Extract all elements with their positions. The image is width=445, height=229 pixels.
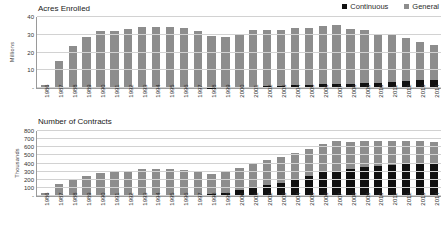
- x-label-slot: 2013: [413, 90, 427, 112]
- bar-slot: [135, 17, 149, 88]
- x-label-slot: 1993: [135, 90, 149, 112]
- y-axis-tick-label-acres-10: 10: [27, 67, 34, 73]
- bar-segment-general: [249, 164, 257, 188]
- bar-segment-general: [291, 153, 299, 180]
- bar-segment-general: [319, 144, 327, 172]
- x-axis-tick-label-acres-1997: 1997: [197, 84, 203, 97]
- x-axis-tick-label-acres-1994: 1994: [155, 84, 161, 97]
- bar-2005: [305, 149, 313, 196]
- bar-slot: [163, 17, 177, 88]
- chart-panel-acres-enrolled: Acres Enrolled Millions -10203040 198619…: [0, 4, 445, 114]
- bar-slot: [274, 17, 288, 88]
- x-axis-tick-label-contracts-1999: 1999: [225, 192, 231, 205]
- bar-segment-general: [221, 37, 229, 88]
- y-axis-tick-label-contracts-700: 700: [24, 136, 34, 142]
- x-axis-tick-label-acres-1998: 1998: [211, 84, 217, 97]
- bar-1999: [221, 37, 229, 88]
- bar-2009: [360, 30, 368, 88]
- y-axis-tick-label-contracts-800: 800: [24, 128, 34, 134]
- x-label-slot: 2012: [399, 90, 413, 112]
- bar-segment-general: [152, 27, 160, 88]
- x-label-slot: 2011: [385, 90, 399, 112]
- bar-segment-general: [346, 29, 354, 84]
- bar-slot: [191, 17, 205, 88]
- bar-2004: [291, 28, 299, 88]
- y-axis-tick-label-contracts-200: 200: [24, 177, 34, 183]
- bar-segment-general: [207, 36, 215, 88]
- bar-2011: [388, 34, 396, 88]
- gridline: 500: [37, 154, 441, 155]
- bar-slot: [52, 17, 66, 88]
- bar-segment-general: [277, 30, 285, 86]
- x-axis-tick-label-acres-1995: 1995: [169, 84, 175, 97]
- bar-slot: [107, 17, 121, 88]
- x-label-slot: 2003: [274, 90, 288, 112]
- bar-2010: [374, 34, 382, 88]
- x-label-slot: 2009: [358, 198, 372, 220]
- bar-segment-general: [207, 174, 215, 194]
- y-axis-tick-label-contracts-400: 400: [24, 161, 34, 167]
- x-axis-tick-label-contracts-1997: 1997: [197, 192, 203, 205]
- x-axis-tick-label-contracts-2006: 2006: [323, 192, 329, 205]
- bar-slot: [344, 17, 358, 88]
- x-axis-tick-label-acres-2000: 2000: [239, 84, 245, 97]
- x-label-slot: 2008: [344, 198, 358, 220]
- x-label-slot: 1986: [37, 90, 51, 112]
- x-axis-tick-label-acres-2014: 2014: [434, 84, 440, 97]
- bar-segment-general: [388, 34, 396, 81]
- bar-2008: [346, 29, 354, 88]
- gridline: 20: [37, 52, 441, 53]
- bar-segment-general: [430, 142, 438, 163]
- x-axis-tick-label-acres-2002: 2002: [267, 84, 273, 97]
- x-axis-tick-label-contracts-2001: 2001: [253, 192, 259, 205]
- x-label-slot: 1998: [204, 90, 218, 112]
- chart-title-number-of-contracts: Number of Contracts: [38, 117, 112, 126]
- x-label-slot: 1995: [162, 90, 176, 112]
- x-label-slot: 2006: [316, 90, 330, 112]
- x-axis-tick-label-contracts-1998: 1998: [211, 192, 217, 205]
- chart-title-acres-enrolled: Acres Enrolled: [38, 4, 90, 13]
- bar-2005: [305, 28, 313, 88]
- bar-segment-general: [235, 34, 243, 87]
- x-axis-tick-label-contracts-2007: 2007: [337, 192, 343, 205]
- x-axis-tick-label-contracts-1994: 1994: [155, 192, 161, 205]
- x-axis-tick-label-contracts-2012: 2012: [406, 192, 412, 205]
- x-axis-tick-label-contracts-2009: 2009: [365, 192, 371, 205]
- x-label-slot: 1997: [190, 90, 204, 112]
- bar-1995: [166, 27, 174, 88]
- y-axis-tick-label-contracts-600: 600: [24, 144, 34, 150]
- x-axis-tick-label-acres-2010: 2010: [378, 84, 384, 97]
- x-label-slot: 1990: [93, 198, 107, 220]
- x-label-slot: 1996: [176, 198, 190, 220]
- x-axis-tick-label-acres-1992: 1992: [128, 84, 134, 97]
- x-axis-tick-label-contracts-1993: 1993: [142, 192, 148, 205]
- bar-1997: [194, 31, 202, 88]
- x-axis-tick-label-contracts-2002: 2002: [267, 192, 273, 205]
- x-axis-tick-label-contracts-1986: 1986: [44, 192, 50, 205]
- bar-slot: [288, 17, 302, 88]
- x-label-slot: 2010: [372, 90, 386, 112]
- x-label-slot: 1999: [218, 90, 232, 112]
- bar-2004: [291, 153, 299, 196]
- bar-segment-general: [249, 30, 257, 86]
- x-axis-tick-label-acres-2003: 2003: [281, 84, 287, 97]
- gridline: 10: [37, 69, 441, 70]
- x-label-slot: 2014: [427, 198, 441, 220]
- x-label-slot: 2006: [316, 198, 330, 220]
- x-axis-tick-label-acres-1993: 1993: [142, 84, 148, 97]
- x-label-slot: 2005: [302, 198, 316, 220]
- x-axis-tick-label-contracts-2008: 2008: [351, 192, 357, 205]
- x-label-slot: 2007: [330, 90, 344, 112]
- x-label-slot: 1994: [149, 90, 163, 112]
- x-axis-tick-label-acres-2012: 2012: [406, 84, 412, 97]
- x-label-slot: 1994: [149, 198, 163, 220]
- bar-segment-general: [416, 141, 424, 163]
- gridline: 40: [37, 16, 441, 17]
- y-axis-tick-label-acres-40: 40: [27, 14, 34, 20]
- gridline: 600: [37, 146, 441, 147]
- bar-segment-continuous: [388, 165, 396, 196]
- x-axis-tick-label-contracts-1989: 1989: [86, 192, 92, 205]
- bar-1996: [180, 28, 188, 88]
- bar-2003: [277, 30, 285, 88]
- bar-1993: [138, 27, 146, 88]
